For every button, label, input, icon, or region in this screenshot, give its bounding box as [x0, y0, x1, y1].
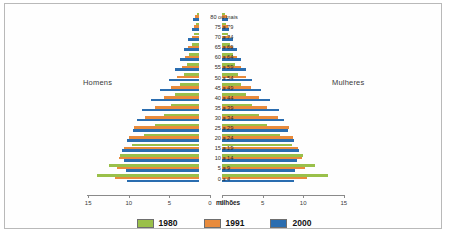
axis-tick-label: 15	[340, 200, 347, 206]
legend-item: 1980	[137, 218, 178, 228]
axis-tick	[303, 195, 304, 198]
bar-men-2000	[193, 18, 199, 21]
age-group-label: 80 ou mais	[201, 12, 247, 22]
legend-swatch-1980	[137, 219, 154, 228]
pyramid-row: 25 a 29	[5, 123, 443, 133]
legend-label: 1991	[226, 218, 245, 228]
axis-tick-label: 0	[220, 200, 223, 206]
axis-tick	[210, 195, 211, 198]
legend-item: 1991	[204, 218, 245, 228]
pyramid-row: 20 a 24	[5, 133, 443, 143]
bar-men-2000	[127, 139, 199, 142]
age-group-label: 35 a 39	[201, 103, 247, 113]
pyramid-row: 5 a 9	[5, 163, 443, 173]
age-group-label: 60 a 64	[201, 52, 247, 62]
axis-tick	[88, 195, 89, 198]
age-group-label: 10 a 14	[201, 153, 247, 163]
axis-tick-label: 10	[125, 200, 132, 206]
bar-men-2000	[127, 180, 199, 183]
age-group-label: 65 a 69	[201, 42, 247, 52]
axis-tick	[344, 195, 345, 198]
pyramid-row: 45 a 49	[5, 83, 443, 93]
axis-tick	[263, 195, 264, 198]
axis-tick-label: 0	[208, 200, 211, 206]
pyramid-plot-area: 80 ou mais75 a 7970 a 7465 a 6960 a 6455…	[5, 12, 443, 196]
age-group-label: 55 a 59	[201, 62, 247, 72]
age-group-label: 30 a 34	[201, 113, 247, 123]
pyramid-row: 35 a 39	[5, 103, 443, 113]
legend-label: 2000	[292, 218, 311, 228]
pyramid-row: 0 a 4	[5, 174, 443, 184]
axis-tick-label: 15	[85, 200, 92, 206]
legend-item: 2000	[270, 218, 311, 228]
age-group-label: 25 a 29	[201, 123, 247, 133]
pyramid-row: 75 a 79	[5, 22, 443, 32]
pyramid-row: 70 a 74	[5, 32, 443, 42]
bar-men-2000	[184, 48, 199, 51]
axis-tick-label: 5	[261, 200, 264, 206]
x-axis: milhões 151050051015	[5, 195, 443, 213]
axis-tick-label: 10	[300, 200, 307, 206]
bar-men-2000	[151, 99, 199, 102]
age-group-label: 40 a 44	[201, 93, 247, 103]
pyramid-row: 40 a 44	[5, 93, 443, 103]
bar-men-2000	[124, 159, 199, 162]
chart-legend: 198019912000	[5, 214, 443, 232]
bar-men-2000	[160, 89, 199, 92]
pyramid-row: 65 a 69	[5, 42, 443, 52]
age-group-label: 15 a 19	[201, 143, 247, 153]
pyramid-row: 60 a 64	[5, 52, 443, 62]
pyramid-row: 80 ou mais	[5, 12, 443, 22]
pyramid-row: 30 a 34	[5, 113, 443, 123]
bar-men-2000	[169, 79, 199, 82]
bar-men-2000	[180, 58, 199, 61]
age-group-label: 70 a 74	[201, 32, 247, 42]
axis-tick-label: 5	[168, 200, 171, 206]
bar-men-2000	[142, 109, 199, 112]
age-group-label: 45 a 49	[201, 83, 247, 93]
bar-men-2000	[137, 119, 199, 122]
pyramid-row: 15 a 19	[5, 143, 443, 153]
bar-men-2000	[122, 149, 199, 152]
pyramid-row: 55 a 59	[5, 62, 443, 72]
legend-label: 1980	[159, 218, 178, 228]
axis-line-left	[87, 195, 210, 196]
pyramid-row: 50 a 54	[5, 73, 443, 83]
bar-men-2000	[133, 129, 199, 132]
pyramid-row: 10 a 14	[5, 153, 443, 163]
age-group-label: 0 a 4	[201, 174, 247, 184]
bar-men-2000	[192, 28, 199, 31]
legend-swatch-1991	[204, 219, 221, 228]
axis-tick	[222, 195, 223, 198]
bar-men-2000	[126, 169, 199, 172]
bar-men-2000	[175, 68, 199, 71]
axis-tick	[129, 195, 130, 198]
age-group-label: 20 a 24	[201, 133, 247, 143]
age-group-label: 50 a 54	[201, 73, 247, 83]
bar-men-2000	[188, 38, 199, 41]
legend-swatch-2000	[270, 219, 287, 228]
chart-frame: Homens Mulheres 80 ou mais75 a 7970 a 74…	[4, 3, 442, 229]
age-group-label: 75 a 79	[201, 22, 247, 32]
axis-tick	[169, 195, 170, 198]
axis-line-right	[222, 195, 344, 196]
age-group-label: 5 a 9	[201, 163, 247, 173]
